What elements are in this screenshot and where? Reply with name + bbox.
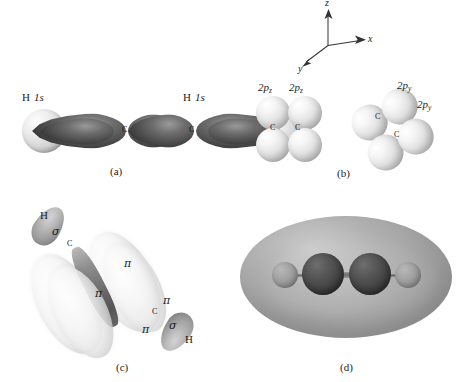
molecular-orbital-figure: z x y C C H1s	[0, 0, 469, 382]
atom-carbon-left	[302, 253, 344, 295]
hydrogen-label-c-bottom: H	[185, 334, 193, 345]
atom-carbon-right	[349, 253, 391, 295]
p-orbital-lobe-left-top-2	[288, 96, 322, 130]
sigma-label-c-top: σ	[52, 226, 60, 237]
axis-x-arrowhead	[355, 35, 366, 44]
pi-label-c-4: π	[142, 324, 149, 335]
carbon-label-b-right-2: C	[394, 131, 399, 139]
panel-d-caption: (d)	[340, 362, 353, 373]
p-orbital-text-right-1: 2p	[397, 79, 408, 91]
atom-hydrogen-right	[395, 262, 421, 288]
hydrogen-orbital-right: 1s	[195, 91, 205, 103]
hydrogen-1s-label-left: H1s	[22, 92, 44, 103]
hydrogen-1s-label-right: H1s	[183, 92, 205, 103]
p-orbital-text-left-2: 2p	[289, 81, 300, 93]
axis-x-label: x	[368, 34, 372, 44]
carbon-label-a-left: C	[122, 126, 127, 134]
pi-label-c-3: π	[163, 295, 170, 306]
p-orbital-label-right-2: 2py	[417, 99, 431, 111]
axis-z-arrowhead	[324, 9, 333, 19]
p-orbital-label-left-2: 2pz	[289, 82, 303, 94]
p-orbital-sub-right-2: y	[428, 103, 431, 112]
p-orbital-sub-left-1: z	[269, 86, 272, 95]
axis-y-label: y	[298, 64, 302, 74]
p-orbital-sub-right-1: y	[408, 84, 411, 93]
pi-label-c-2: π	[95, 288, 102, 299]
carbon-label-b-right-1: C	[375, 113, 380, 121]
hydrogen-orbital-left: 1s	[34, 91, 44, 103]
p-orbital-text-left-1: 2p	[258, 81, 269, 93]
p-orbital-lobe-left-bottom-1	[256, 128, 290, 162]
panel-c-caption: (c)	[116, 362, 128, 373]
carbon-label-a-right: C	[189, 126, 194, 134]
panel-a-caption: (a)	[110, 166, 122, 177]
sigma-label-c-bottom: σ	[169, 320, 177, 331]
axis-y-arrowhead	[302, 56, 313, 67]
sigma-lobe-top	[26, 201, 72, 251]
atom-hydrogen-left	[272, 262, 298, 288]
p-orbital-label-left-1: 2pz	[258, 82, 272, 94]
p-orbital-sub-left-2: z	[300, 86, 303, 95]
pi-label-c-1: π	[124, 258, 131, 269]
carbon-label-b-left-2: C	[295, 124, 300, 132]
carbon-label-b-left-1: C	[270, 124, 275, 132]
panel-b-caption: (b)	[337, 168, 350, 179]
hydrogen-symbol-left: H	[22, 91, 30, 103]
carbon-label-c-bottom: C	[152, 308, 157, 316]
hydrogen-symbol-right: H	[183, 91, 191, 103]
carbon-label-c-top: C	[67, 240, 72, 248]
hydrogen-label-c-top: H	[40, 210, 48, 221]
p-orbital-label-right-1: 2py	[397, 80, 411, 92]
p-orbital-lobe-left-bottom-2	[288, 128, 322, 162]
p-orbital-text-right-2: 2p	[417, 98, 428, 110]
axis-z-label: z	[325, 0, 329, 8]
